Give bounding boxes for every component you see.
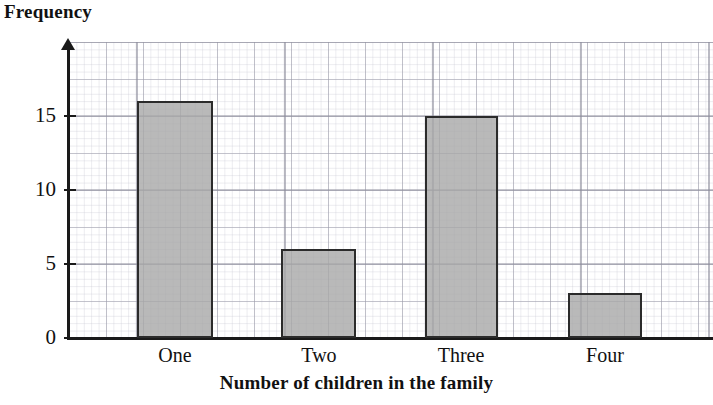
y-tick-mark-0 (64, 337, 76, 339)
x-tick-label-three: Three (411, 344, 511, 366)
x-tick-label-one: One (125, 344, 225, 366)
x-axis-title: Number of children in the family (0, 372, 713, 394)
y-tick-label-5: 5 (22, 253, 56, 274)
bar-one (137, 101, 213, 338)
y-axis-line (67, 46, 70, 339)
y-tick-mark-15 (64, 115, 76, 117)
bar-two (281, 249, 356, 338)
y-tick-label-15: 15 (22, 105, 56, 126)
bar-chart: Frequency (0, 0, 713, 405)
y-tick-label-0: 0 (22, 327, 56, 348)
y-tick-label-10: 10 (22, 179, 56, 200)
y-tick-mark-5 (64, 263, 76, 265)
y-tick-mark-10 (64, 189, 76, 191)
bar-four (568, 293, 642, 338)
bar-three (425, 116, 498, 338)
y-axis-title: Frequency (4, 1, 92, 23)
y-axis-arrow-icon (61, 38, 75, 50)
x-tick-label-four: Four (555, 344, 655, 366)
x-tick-label-two: Two (269, 344, 369, 366)
